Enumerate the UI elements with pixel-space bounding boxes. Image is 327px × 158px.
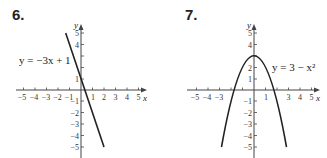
equation-label-6: y = −3x + 1 (19, 54, 71, 66)
x-axis-arrow-icon (314, 88, 320, 93)
svg-text:−4: −4 (30, 93, 39, 102)
svg-text:1: 1 (75, 75, 79, 84)
svg-text:3: 3 (114, 93, 118, 102)
svg-text:3: 3 (287, 93, 291, 102)
x-axis-arrow-icon (141, 88, 147, 93)
svg-text:1: 1 (91, 93, 95, 102)
svg-text:−5: −5 (191, 93, 200, 102)
svg-text:−5: −5 (70, 143, 79, 152)
svg-text:−4: −4 (203, 93, 212, 102)
x-axis-label: x (315, 93, 320, 103)
svg-text:−4: −4 (70, 132, 79, 141)
svg-text:4: 4 (125, 93, 129, 102)
svg-text:−4: −4 (243, 132, 252, 141)
svg-text:−3: −3 (42, 93, 51, 102)
svg-text:4: 4 (75, 41, 79, 50)
svg-text:−2: −2 (243, 109, 252, 118)
graph-6: −5−4−3 −2−11 234 5 541 −1−2−3 −4−5 x y y… (16, 20, 147, 158)
equation-label-7: y = 3 − x² (272, 61, 316, 73)
svg-text:−1: −1 (70, 97, 79, 106)
graphs-canvas: −5−4−3 −2−11 234 5 541 −1−2−3 −4−5 x y y… (0, 0, 327, 158)
y-axis-label: y (73, 20, 78, 30)
y-axis-arrow-icon (252, 24, 257, 30)
svg-text:5: 5 (248, 29, 252, 38)
svg-text:2: 2 (248, 64, 252, 73)
svg-text:5: 5 (137, 93, 141, 102)
svg-text:−3: −3 (70, 120, 79, 129)
svg-text:1: 1 (264, 93, 268, 102)
svg-text:4: 4 (298, 93, 302, 102)
y-axis-arrow-icon (79, 24, 84, 30)
x-axis-label: x (142, 93, 147, 103)
y-axis-label: y (246, 20, 251, 30)
svg-text:4: 4 (248, 41, 252, 50)
svg-text:5: 5 (75, 29, 79, 38)
svg-text:1: 1 (248, 75, 252, 84)
svg-text:−3: −3 (215, 93, 224, 102)
svg-text:−2: −2 (70, 109, 79, 118)
graph-7: −5−4−3 134 5 542 1−1−2 −3−4−5 x y y = 3 … (187, 20, 320, 158)
svg-text:−1: −1 (243, 97, 252, 106)
svg-text:2: 2 (102, 93, 106, 102)
svg-text:−2: −2 (53, 93, 62, 102)
svg-text:−5: −5 (18, 93, 27, 102)
svg-text:−3: −3 (243, 120, 252, 129)
svg-text:5: 5 (310, 93, 314, 102)
svg-text:−5: −5 (243, 143, 252, 152)
